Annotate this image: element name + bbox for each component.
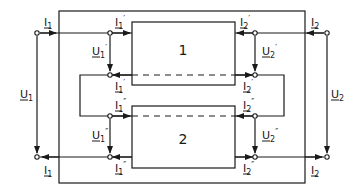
label-I1-top: I1 [44, 16, 52, 31]
node-b1-left-top [108, 31, 112, 35]
label-U2: U2 [331, 88, 344, 103]
block-1-label: 1 [179, 42, 188, 58]
label-I1p-top: I1′ [115, 15, 125, 31]
svg-text:I2: I2 [311, 164, 319, 179]
svg-text:U1: U1 [20, 88, 33, 103]
node-b1-right-top [253, 31, 257, 35]
terminal-2-bottom [325, 155, 329, 159]
label-U1: U1 [20, 88, 33, 103]
node-b2-left-bottom [108, 155, 112, 159]
wire-right-loop [255, 75, 284, 116]
label-I2p-top: I2′ [240, 15, 250, 31]
label-U1pp: U1″ [92, 128, 108, 144]
svg-text:I2′: I2′ [243, 79, 253, 95]
svg-text:I2′: I2′ [240, 15, 250, 31]
svg-text:I1″: I1″ [115, 161, 126, 177]
label-U1p: U1′ [92, 44, 107, 60]
wire-left-loop [80, 75, 110, 116]
label-I2pp-bottom: I2″ [243, 161, 254, 177]
circuit-diagram: 1 2 I1 I1 I2 I2 U1 U2 I1′ I1′ U1′ [0, 0, 355, 189]
label-I1pp-top: I1″ [115, 98, 126, 114]
label-I1pp-bottom: I1″ [115, 161, 126, 177]
node-b1-right-bottom [253, 73, 257, 77]
node-b2-right-bottom [253, 155, 257, 159]
svg-text:I1: I1 [44, 16, 52, 31]
label-I2p-bottom: I2′ [243, 79, 253, 95]
terminal-1-top [35, 31, 39, 35]
label-U2pp: U2″ [262, 128, 278, 144]
label-I1-bottom: I1 [44, 164, 52, 179]
svg-text:U2″: U2″ [262, 128, 278, 144]
svg-text:I1′: I1′ [115, 15, 125, 31]
svg-text:I2: I2 [311, 16, 319, 31]
label-I2pp-top: I2″ [243, 98, 254, 114]
svg-text:I2″: I2″ [243, 161, 254, 177]
label-U2p: U2′ [262, 44, 277, 60]
label-I1p-bottom: I1′ [115, 79, 125, 95]
svg-text:I1″: I1″ [115, 98, 126, 114]
svg-text:I1′: I1′ [115, 79, 125, 95]
terminal-1-bottom [35, 155, 39, 159]
node-b2-left-top [108, 114, 112, 118]
svg-text:I1: I1 [44, 164, 52, 179]
svg-text:I2″: I2″ [243, 98, 254, 114]
svg-text:U1′: U1′ [92, 44, 107, 60]
svg-text:U2′: U2′ [262, 44, 277, 60]
svg-text:U2: U2 [331, 88, 344, 103]
label-I2-top: I2 [311, 16, 319, 31]
node-b1-left-bottom [108, 73, 112, 77]
svg-text:U1″: U1″ [92, 128, 108, 144]
block-2-label: 2 [179, 131, 188, 147]
terminal-2-top [325, 31, 329, 35]
node-b2-right-top [253, 114, 257, 118]
label-I2-bottom: I2 [311, 164, 319, 179]
